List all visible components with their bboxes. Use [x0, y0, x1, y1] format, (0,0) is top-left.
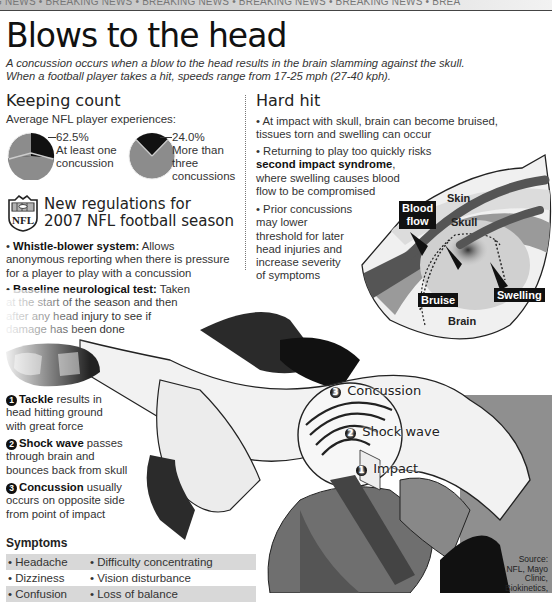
step-title: Shock wave — [19, 437, 84, 449]
symptom-item: • Dizziness — [6, 570, 90, 586]
regulation-text: Allows — [139, 240, 174, 252]
skin-label: Skin — [447, 192, 470, 204]
pie-caption: concussion — [56, 157, 117, 170]
helmet-callout-concussion: 3 Concussion — [330, 383, 421, 398]
pie-leader-line — [160, 137, 172, 138]
symptom-item: • Loss of balance — [90, 586, 178, 602]
pie-label-24: 24.0% More than three concussions — [172, 131, 235, 183]
helmet-callout-impact: 1 Impact — [356, 461, 418, 476]
page-title: Blows to the head — [6, 16, 286, 55]
nfl-shield-icon: NFL — [7, 194, 39, 232]
diagram-label-text: Blood — [402, 202, 433, 215]
regulations-heading: New regulations for 2007 NFL football se… — [44, 196, 234, 230]
step-text: occurs on opposite side — [6, 494, 156, 507]
regulations-heading-line: 2007 NFL football season — [44, 213, 234, 230]
number-badge-2: 2 — [345, 428, 356, 439]
pie-value: 24.0% — [172, 131, 235, 144]
regulations-heading-line: New regulations for — [44, 196, 234, 213]
diagram-label-text: flow — [402, 215, 433, 228]
blood-flow-label: Blood flow — [399, 201, 436, 229]
step-text: passes — [84, 437, 123, 449]
deck-text: A concussion occurs when a blow to the h… — [6, 57, 546, 83]
number-badge-3: 3 — [330, 387, 341, 398]
step-text: through brain and — [6, 450, 156, 463]
keeping-count-heading: Keeping count — [6, 91, 121, 110]
step-text: with great force — [6, 420, 156, 433]
symptom-item: • Difficulty concentrating — [90, 554, 213, 570]
symptoms-table: Symptoms • Headache • Difficulty concent… — [6, 536, 256, 602]
number-badge-1: 1 — [6, 395, 17, 406]
symptom-item: • Confusion — [6, 586, 90, 602]
number-badge-2: 2 — [6, 439, 17, 450]
callout-label: Impact — [373, 461, 418, 476]
pie-caption: three — [172, 157, 235, 170]
deck-line: A concussion occurs when a blow to the h… — [6, 57, 546, 70]
pie-caption: At least one — [56, 144, 117, 157]
column-divider — [245, 95, 246, 270]
breaking-news-banner: G NEWS • BREAKING NEWS • BREAKING NEWS •… — [0, 0, 552, 11]
symptom-row: • Confusion • Loss of balance — [6, 586, 256, 602]
regulation-item-whistleblower: • Whistle-blower system: Allows anonymou… — [6, 240, 242, 280]
deck-line: When a football player takes a hit, spee… — [6, 70, 546, 83]
symptom-row: • Dizziness • Vision disturbance — [6, 570, 256, 586]
symptoms-heading: Symptoms — [6, 536, 256, 550]
step-title: Tackle — [19, 393, 53, 405]
hard-hit-text: tissues torn and swelling can occur — [256, 128, 546, 141]
step-tackle: 1Tackle results in head hitting ground w… — [6, 393, 156, 433]
banner-text: G NEWS • BREAKING NEWS • BREAKING NEWS •… — [0, 0, 460, 7]
callout-label: Concussion — [347, 383, 421, 398]
hard-hit-heading: Hard hit — [256, 91, 320, 110]
symptom-item: • Vision disturbance — [90, 570, 191, 586]
step-text: head hitting ground — [6, 406, 156, 419]
step-concussion: 3Concussion usually occurs on opposite s… — [6, 481, 156, 521]
pie-caption: More than — [172, 144, 235, 157]
regulation-text: for a player to play with a concussion — [6, 267, 242, 280]
pie-label-62: 62.5% At least one concussion — [56, 131, 117, 170]
callout-label: Shock wave — [362, 424, 440, 439]
pie-chart-24-icon — [128, 132, 176, 180]
symptom-row: • Headache • Difficulty concentrating — [6, 554, 256, 570]
hard-hit-bullet-1: • At impact with skull, brain can become… — [256, 115, 546, 142]
step-text: results in — [53, 393, 101, 405]
source-text: Biokinetics, — [505, 584, 548, 594]
step-title: Concussion — [19, 481, 84, 493]
regulation-text: anonymous reporting when there is pressu… — [6, 253, 242, 266]
step-text: from point of impact — [6, 508, 156, 521]
pie-chart-62-icon — [7, 132, 55, 180]
step-text: usually — [84, 481, 122, 493]
step-text: bounces back from skull — [6, 464, 156, 477]
number-badge-1: 1 — [356, 465, 367, 476]
regulation-bold: Whistle-blower system: — [13, 240, 139, 252]
hard-hit-text: • At impact with skull, brain can become… — [256, 115, 546, 128]
step-shock-wave: 2Shock wave passes through brain and bou… — [6, 437, 156, 477]
skull-label: Skull — [451, 216, 477, 228]
pie-value: 62.5% — [56, 131, 117, 144]
svg-text:NFL: NFL — [12, 214, 34, 226]
pie-caption: concussions — [172, 170, 235, 183]
source-credit: Source: NFL, Mayo Clinic, Biokinetics, — [505, 555, 548, 593]
pie-leader-line — [48, 137, 56, 138]
helmet-callout-shock-wave: 2 Shock wave — [345, 424, 440, 439]
keeping-count-subheading: Average NFL player experiences: — [6, 113, 176, 126]
number-badge-3: 3 — [6, 483, 17, 494]
symptom-item: • Headache — [6, 554, 90, 570]
